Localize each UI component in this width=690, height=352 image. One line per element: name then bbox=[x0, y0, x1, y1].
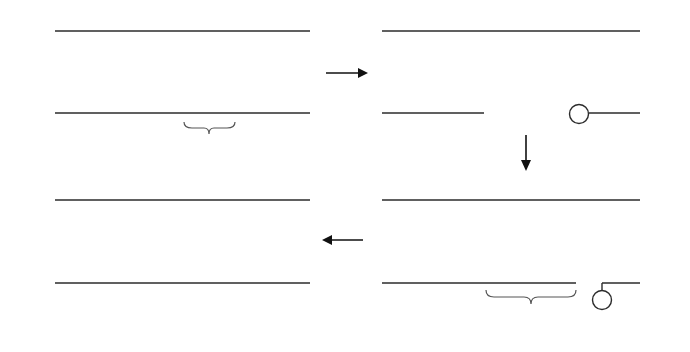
phosphate-icon bbox=[570, 105, 589, 124]
phosphate-icon bbox=[593, 291, 612, 310]
defect-brace bbox=[184, 122, 235, 134]
repair-brace bbox=[486, 290, 576, 304]
panel-initial bbox=[55, 31, 310, 134]
arrowhead-left-icon bbox=[322, 235, 332, 245]
arrowhead-right-icon bbox=[358, 68, 368, 78]
step-1-arrow bbox=[326, 68, 368, 78]
step-3-arrow bbox=[322, 235, 363, 245]
panel-repaired bbox=[55, 200, 310, 283]
panel-resynthesized bbox=[382, 200, 640, 310]
dna-repair-diagram bbox=[0, 0, 690, 352]
step-2-arrow bbox=[521, 135, 531, 171]
arrowhead-down-icon bbox=[521, 160, 531, 171]
panel-excised bbox=[382, 31, 640, 124]
